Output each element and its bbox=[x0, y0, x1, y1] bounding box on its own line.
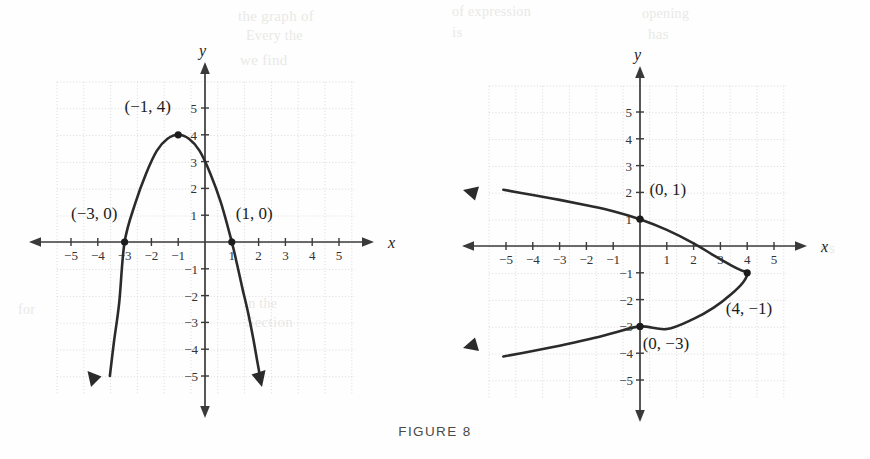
graph-panel-right: −5−4−3−2−11234554321−1−2−3−4−5 (0, 1)(4,… bbox=[435, 0, 870, 430]
left-graph-svg: −5−4−3−2−11234554321−1−2−3−4−5 (−1, 4)(−… bbox=[0, 0, 435, 430]
marked-point bbox=[744, 269, 751, 276]
graph-panel-left: −5−4−3−2−11234554321−1−2−3−4−5 (−1, 4)(−… bbox=[0, 0, 435, 430]
x-axis-arrow-left bbox=[462, 241, 474, 251]
x-tick-label: −1 bbox=[171, 248, 185, 263]
point-coordinate-label: (0, −3) bbox=[643, 334, 689, 353]
y-tick-label: 4 bbox=[626, 132, 633, 147]
y-tick-label: −4 bbox=[619, 346, 633, 361]
y-tick-label: 2 bbox=[191, 181, 198, 196]
y-tick-label: 5 bbox=[626, 105, 633, 120]
x-tick-label: 5 bbox=[336, 248, 343, 263]
curve-arrows-left bbox=[88, 370, 266, 387]
y-tick-label: −1 bbox=[619, 266, 633, 281]
y-axis-arrow-up bbox=[200, 62, 210, 74]
curve-arrow-left-branch bbox=[88, 371, 102, 387]
x-tick-label: −1 bbox=[606, 252, 620, 267]
y-tick-label: −2 bbox=[184, 289, 198, 304]
x-axis-arrow-right bbox=[795, 241, 807, 251]
marked-point bbox=[175, 131, 182, 138]
y-tick-label: −4 bbox=[184, 342, 198, 357]
x-tick-label: −2 bbox=[144, 248, 158, 263]
x-tick-label: −2 bbox=[579, 252, 593, 267]
x-tick-label: −5 bbox=[64, 248, 78, 263]
marked-point bbox=[228, 238, 235, 245]
x-axis-arrow-right bbox=[362, 237, 374, 247]
x-tick-label: 3 bbox=[282, 248, 289, 263]
x-tick-label: 1 bbox=[664, 252, 671, 267]
point-coordinate-label: (−1, 4) bbox=[125, 97, 171, 116]
y-tick-label: 3 bbox=[626, 159, 633, 174]
point-labels-left: (−1, 4)(−3, 0)(1, 0) bbox=[71, 97, 273, 223]
point-coordinate-label: (−3, 0) bbox=[71, 204, 117, 223]
y-axis-label-left: y bbox=[197, 42, 207, 60]
x-tick-label: 2 bbox=[255, 248, 262, 263]
curve-arrow-lower-branch bbox=[463, 338, 479, 352]
y-tick-label: 3 bbox=[191, 155, 198, 170]
x-tick-label: 2 bbox=[690, 252, 697, 267]
y-tick-label: −2 bbox=[619, 293, 633, 308]
x-tick-label: −3 bbox=[553, 252, 567, 267]
curve-arrows-right bbox=[463, 187, 479, 352]
figure-page: the graph ofEvery thewe findin theSectio… bbox=[0, 0, 870, 459]
marked-point bbox=[636, 216, 643, 223]
y-tick-label: −5 bbox=[619, 373, 633, 388]
x-axis-arrow-left bbox=[29, 237, 41, 247]
x-tick-label: −5 bbox=[499, 252, 513, 267]
y-axis-arrow-down bbox=[635, 410, 645, 422]
y-tick-label: −3 bbox=[184, 315, 198, 330]
point-coordinate-label: (0, 1) bbox=[649, 180, 686, 199]
y-axis-label-right: y bbox=[632, 46, 642, 64]
y-axis-arrow-up bbox=[635, 66, 645, 78]
figure-caption: FIGURE 8 bbox=[0, 424, 870, 439]
point-coordinate-label: (1, 0) bbox=[236, 204, 273, 223]
curve-arrow-upper-branch bbox=[463, 187, 479, 201]
y-tick-label: 2 bbox=[626, 185, 633, 200]
y-tick-label: 1 bbox=[191, 208, 198, 223]
x-tick-label: 5 bbox=[771, 252, 778, 267]
y-tick-label: −5 bbox=[184, 369, 198, 384]
x-axis-label-right: x bbox=[820, 238, 828, 255]
marked-point bbox=[636, 323, 643, 330]
y-axis-arrow-down bbox=[200, 406, 210, 418]
y-tick-label: −1 bbox=[184, 262, 198, 277]
curve-arrow-right-branch bbox=[252, 370, 266, 387]
x-tick-label: −4 bbox=[91, 248, 105, 263]
axes-right bbox=[462, 66, 807, 422]
marked-point bbox=[121, 238, 128, 245]
x-tick-label: 4 bbox=[309, 248, 316, 263]
axes-left bbox=[29, 62, 374, 418]
x-axis-label-left: x bbox=[387, 234, 395, 251]
y-tick-label: 5 bbox=[191, 101, 198, 116]
right-graph-svg: −5−4−3−2−11234554321−1−2−3−4−5 (0, 1)(4,… bbox=[435, 0, 870, 430]
x-tick-label: 4 bbox=[744, 252, 751, 267]
point-coordinate-label: (4, −1) bbox=[726, 299, 772, 318]
grid-left bbox=[57, 82, 355, 395]
x-tick-label: −4 bbox=[526, 252, 540, 267]
